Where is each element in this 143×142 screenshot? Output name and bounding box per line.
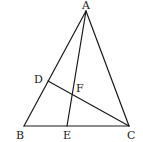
label-B: B	[16, 129, 24, 142]
label-F: F	[76, 82, 84, 95]
segment-AC	[86, 11, 129, 126]
triangle-diagram: A B C D E F	[0, 0, 143, 142]
label-D: D	[34, 73, 43, 86]
segment-DC	[48, 81, 129, 126]
label-E: E	[63, 129, 71, 142]
label-C: C	[127, 129, 135, 142]
label-A: A	[81, 0, 91, 12]
